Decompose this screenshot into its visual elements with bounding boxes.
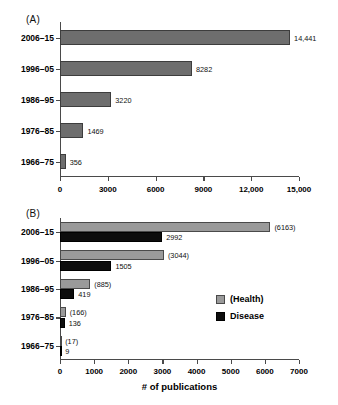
panel-a-bar [60, 30, 290, 45]
panel-b-bar-health [60, 222, 270, 232]
panel-b-x-tick-label: 3000 [154, 367, 172, 376]
panel-b-value-label-disease: 136 [69, 318, 81, 327]
panel-b-value-label-disease: 9 [65, 347, 69, 356]
panel-b-bar-health [60, 307, 66, 317]
panel-a-x-tick-label: 15,000 [287, 185, 311, 194]
panel-b-bar-health [60, 336, 62, 346]
panel-a-value-label: 14,441 [294, 33, 316, 42]
panel-b-value-label-health: (166) [70, 308, 87, 317]
panel-a-category-label: 1966–75 [21, 157, 54, 167]
panel-b-x-tick-label: 0 [58, 367, 62, 376]
panel-a-x-tick-label: 3000 [99, 185, 117, 194]
panel-b-x-axis-title: # of publications [60, 381, 299, 392]
panel-b-x-tick [162, 360, 163, 364]
panel-b-value-label-health: (885) [94, 279, 111, 288]
panel-b-x-tick-label: 4000 [188, 367, 206, 376]
panel-b-value-label-disease: 419 [78, 290, 90, 299]
panel-a: (A) 030006000900012,00015,000 1966–75197… [0, 0, 338, 202]
legend-item-health: (Health) [216, 294, 264, 304]
panel-b-x-tick [128, 360, 129, 364]
panel-b-category-label: 2006–15 [21, 227, 54, 237]
panel-b-x-tick [299, 360, 300, 364]
panel-b-legend: (Health) Disease [216, 294, 264, 328]
panel-b-x-tick-label: 5000 [222, 367, 240, 376]
panel-b-x-tick [231, 360, 232, 364]
legend-label-disease: Disease [230, 311, 264, 321]
panel-a-x-tick-label: 9000 [194, 185, 212, 194]
legend-item-disease: Disease [216, 311, 264, 321]
panel-a-bar [60, 61, 192, 76]
panel-a-x-axis [60, 176, 299, 177]
panel-b-bar-disease [60, 232, 162, 242]
panel-a-bar [60, 154, 66, 169]
panel-b-x-tick-label: 1000 [85, 367, 103, 376]
panel-a-category-label: 1996–05 [21, 64, 54, 74]
panel-b-category-label: 1986–95 [21, 284, 54, 294]
panel-b-bar-disease [60, 289, 74, 299]
panel-b-bar-health [60, 279, 90, 289]
panel-b-tag: (B) [26, 208, 40, 219]
panel-a-value-label: 356 [70, 157, 82, 166]
panel-a-value-label: 8282 [196, 64, 212, 73]
panel-b-x-axis [60, 359, 299, 360]
panel-b-value-label-health: (3044) [168, 251, 189, 260]
legend-label-health: (Health) [230, 294, 264, 304]
panel-b-x-tick-label: 6000 [256, 367, 274, 376]
panel-b-category-label: 1996–05 [21, 256, 54, 266]
panel-b-x-tick-label: 7000 [290, 367, 308, 376]
panel-b-value-label-disease: 2992 [166, 233, 182, 242]
panel-a-x-tick-label: 12,000 [239, 185, 263, 194]
panel-b-value-label-disease: 1505 [115, 261, 131, 270]
panel-b-value-label-health: (17) [65, 336, 78, 345]
panel-a-plot-area: 030006000900012,00015,000 1966–751976–85… [60, 22, 299, 177]
panel-a-x-tick [156, 177, 157, 181]
panel-a-category-label: 1986–95 [21, 95, 54, 105]
panel-b-bar-health [60, 250, 164, 260]
panel-a-x-tick [60, 177, 61, 181]
panel-b-x-tick [197, 360, 198, 364]
panel-a-x-tick [108, 177, 109, 181]
panel-a-category-label: 1976–85 [21, 126, 54, 136]
panel-a-value-label: 3220 [115, 95, 131, 104]
panel-a-value-label: 1469 [87, 126, 103, 135]
legend-swatch-health-icon [216, 295, 225, 304]
panel-a-bar [60, 92, 111, 107]
panel-b-bar-disease [60, 261, 111, 271]
panel-b-category-label: 1966–75 [21, 341, 54, 351]
panel-a-tag: (A) [26, 14, 40, 25]
legend-swatch-disease-icon [216, 312, 225, 321]
panel-b-x-tick-label: 2000 [119, 367, 137, 376]
panel-b: (B) 01000200030004000500060007000 1966–7… [0, 202, 338, 405]
panel-a-x-tick [203, 177, 204, 181]
panel-b-category-label: 1976–85 [21, 312, 54, 322]
panel-b-value-label-health: (6163) [274, 222, 295, 231]
panel-b-bar-disease [60, 346, 62, 356]
panel-b-plot-area: 01000200030004000500060007000 1966–75197… [60, 218, 299, 360]
panel-a-bar [60, 123, 83, 138]
panel-b-x-tick [94, 360, 95, 364]
panel-a-category-label: 2006–15 [21, 33, 54, 43]
panel-a-x-tick-label: 6000 [147, 185, 165, 194]
panel-a-x-tick [251, 177, 252, 181]
panel-b-x-tick [265, 360, 266, 364]
panel-b-bar-disease [60, 318, 65, 328]
panel-b-x-tick [60, 360, 61, 364]
panel-a-x-tick [299, 177, 300, 181]
panel-a-x-tick-label: 0 [58, 185, 62, 194]
